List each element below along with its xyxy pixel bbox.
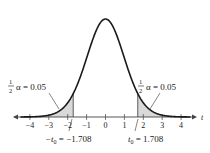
- x-tick-label: 2: [141, 121, 145, 130]
- density-curve: [20, 19, 190, 117]
- x-tick-label: −1: [82, 121, 91, 130]
- right-alpha-label: α = 0.05: [146, 82, 177, 92]
- x-tick-label: 4: [179, 121, 183, 130]
- svg-text:t0 = 1.708: t0 = 1.708: [128, 134, 164, 145]
- x-axis-left-arrow-icon: [13, 115, 18, 120]
- x-tick-label: −3: [45, 121, 54, 130]
- t-distribution-chart: t −4−3−2−101234 1 2 α = 0.05 1 2 α = 0.0…: [0, 0, 210, 153]
- right-critical-label: t0 = 1.708: [128, 119, 164, 145]
- left-frac-denominator: 2: [9, 87, 12, 94]
- x-tick-label: 1: [122, 121, 126, 130]
- svg-text:−t0 = −1.708: −t0 = −1.708: [45, 134, 92, 145]
- left-alpha-annotation: 1 2 α = 0.05: [8, 78, 59, 109]
- x-tick-label: 0: [104, 121, 108, 130]
- left-crit-value: = −1.708: [57, 134, 92, 144]
- x-tick-label: 3: [160, 121, 164, 130]
- right-leader-line: [150, 93, 160, 109]
- left-leader-line: [49, 93, 59, 109]
- x-tick-label: −4: [26, 121, 35, 130]
- left-frac-numerator: 1: [9, 78, 12, 85]
- right-crit-value: = 1.708: [134, 134, 164, 144]
- x-axis-label: t: [201, 113, 204, 122]
- x-axis-arrow-icon: [192, 115, 197, 120]
- right-frac-denominator: 2: [139, 87, 142, 94]
- left-alpha-label: α = 0.05: [16, 82, 47, 92]
- right-frac-numerator: 1: [139, 78, 142, 85]
